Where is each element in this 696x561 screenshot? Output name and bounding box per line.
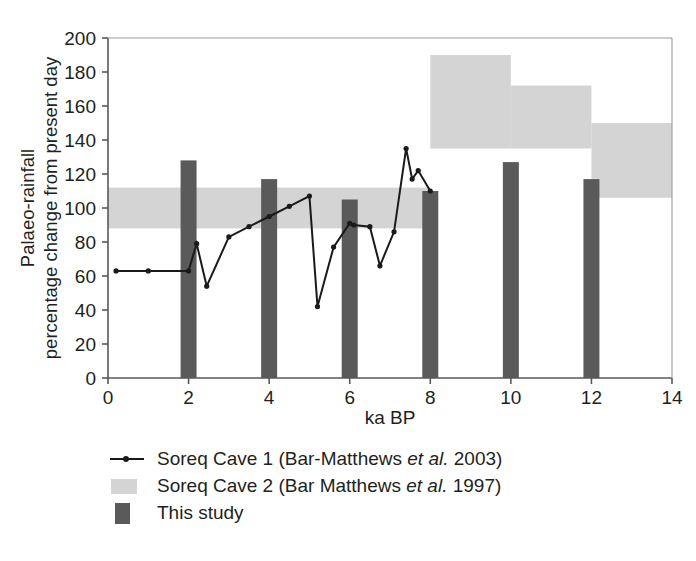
y-axis-ticks: 020406080100120140160180200 [64, 28, 108, 389]
y-tick-label-200: 200 [64, 28, 96, 49]
x-axis-ticks: 02468101214 [103, 378, 683, 408]
y-tick-label-160: 160 [64, 96, 96, 117]
y-axis-title-line1: Palaeo-rainfall [17, 149, 38, 267]
line-marker-15 [377, 263, 382, 268]
y-tick-label-60: 60 [75, 266, 96, 287]
line-marker-20 [428, 188, 433, 193]
y-tick-label-180: 180 [64, 62, 96, 83]
line-marker-5 [226, 234, 231, 239]
band-segment-3 [591, 123, 672, 198]
chart-plot-area: 020406080100120140160180200 02468101214 … [0, 0, 696, 440]
y-tick-label-20: 20 [75, 334, 96, 355]
band-segment-1 [430, 55, 511, 149]
line-marker-9 [307, 194, 312, 199]
y-tick-label-100: 100 [64, 198, 96, 219]
bar-12ka [583, 179, 599, 378]
line-marker-17 [404, 146, 409, 151]
legend-bar-swatch-icon [108, 502, 148, 524]
y-tick-label-120: 120 [64, 164, 96, 185]
x-tick-label-0: 0 [103, 387, 114, 408]
x-tick-label-6: 6 [344, 387, 355, 408]
legend-item-this-study: This study [108, 499, 608, 526]
legend-band-swatch-icon [108, 475, 148, 497]
line-marker-3 [194, 241, 199, 246]
bar-10ka [503, 162, 519, 378]
y-tick-label-80: 80 [75, 232, 96, 253]
line-marker-13 [351, 222, 356, 227]
x-tick-label-12: 12 [581, 387, 602, 408]
legend-item-soreq-cave-2: Soreq Cave 2 (Bar Matthews et al. 1997) [108, 472, 608, 499]
x-tick-label-10: 10 [500, 387, 521, 408]
line-marker-18 [410, 177, 415, 182]
line-marker-14 [367, 224, 372, 229]
palaeo-rainfall-chart: 020406080100120140160180200 02468101214 … [0, 0, 696, 440]
x-tick-label-14: 14 [661, 387, 683, 408]
legend-label-this-study: This study [157, 501, 244, 525]
legend-line-key-icon [108, 448, 148, 470]
line-marker-6 [246, 224, 251, 229]
band-segment-2 [511, 86, 592, 149]
line-marker-10 [315, 304, 320, 309]
x-tick-label-8: 8 [425, 387, 436, 408]
line-marker-4 [204, 284, 209, 289]
legend-item-soreq-cave-1: Soreq Cave 1 (Bar-Matthews et al. 2003) [108, 445, 608, 472]
chart-legend: Soreq Cave 1 (Bar-Matthews et al. 2003) … [108, 445, 608, 526]
legend-label-soreq-cave-2: Soreq Cave 2 (Bar Matthews et al. 1997) [157, 474, 501, 498]
line-marker-11 [331, 245, 336, 250]
x-tick-label-4: 4 [264, 387, 275, 408]
y-tick-label-40: 40 [75, 300, 96, 321]
bar-4ka [261, 179, 277, 378]
line-marker-16 [391, 229, 396, 234]
line-marker-19 [416, 168, 421, 173]
line-marker-1 [146, 268, 151, 273]
x-axis-title: ka BP [365, 407, 416, 428]
figure-container: 020406080100120140160180200 02468101214 … [0, 0, 696, 561]
line-marker-2 [186, 268, 191, 273]
y-axis-title-line2: percentage change from present day [40, 56, 61, 359]
bar-8ka [422, 191, 438, 378]
x-tick-label-2: 2 [183, 387, 194, 408]
y-tick-label-140: 140 [64, 130, 96, 151]
line-marker-0 [113, 268, 118, 273]
legend-label-soreq-cave-1: Soreq Cave 1 (Bar-Matthews et al. 2003) [157, 447, 502, 471]
line-marker-7 [267, 214, 272, 219]
line-marker-8 [287, 204, 292, 209]
y-tick-label-0: 0 [85, 368, 96, 389]
